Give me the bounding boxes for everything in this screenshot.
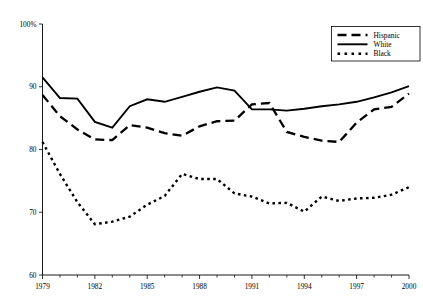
legend-label-black: Black (374, 49, 392, 58)
y-tick-label: 70 (29, 208, 37, 217)
x-axis: 19791982198519881991199419972000 (35, 275, 416, 291)
y-tick-label: 100% (19, 20, 36, 29)
series-line-hispanic (43, 94, 410, 142)
y-tick-label: 80 (29, 145, 37, 154)
y-tick-label: 60 (29, 271, 37, 280)
x-tick-label: 1994 (297, 282, 312, 291)
x-tick-label: 1997 (349, 282, 364, 291)
chart-canvas: 100%90807060 197919821985198819911994199… (0, 0, 423, 303)
x-tick-label: 2000 (402, 282, 417, 291)
data-series-group (43, 77, 410, 224)
x-tick-label: 1982 (88, 282, 103, 291)
x-tick-label: 1991 (245, 282, 260, 291)
x-tick-label: 1988 (192, 282, 207, 291)
legend-label-hispanic: Hispanic (374, 31, 401, 40)
legend-label-white: White (374, 40, 393, 49)
chart-legend: HispanicWhiteBlack (332, 27, 421, 62)
x-tick-label: 1979 (35, 282, 50, 291)
line-chart: 100%90807060 197919821985198819911994199… (0, 0, 423, 303)
x-tick-label: 1985 (140, 282, 155, 291)
y-tick-label: 90 (29, 82, 37, 91)
y-axis: 100%90807060 (19, 20, 42, 280)
series-line-black (43, 142, 410, 224)
